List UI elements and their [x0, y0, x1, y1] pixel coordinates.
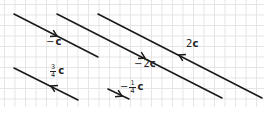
label-neg-quarter-c: −14c: [120, 80, 143, 94]
vector-diagram: −c −2c 2c 34c −14c: [0, 0, 264, 115]
vector-line-three-quarter-c: [14, 68, 78, 100]
label-neg-c: −c: [46, 37, 61, 47]
label-2c: 2c: [186, 39, 198, 49]
vector-lines: [0, 0, 264, 115]
label-three-quarter-c: 34c: [50, 64, 64, 78]
label-neg-2c: −2c: [134, 59, 156, 69]
fraction-3-4: 34: [50, 64, 56, 78]
fraction-1-4: 14: [129, 80, 135, 94]
